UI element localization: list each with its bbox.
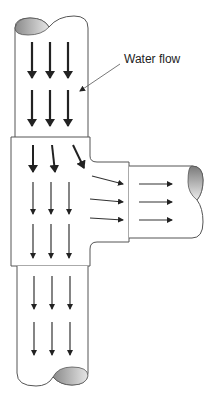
water-flow-label: Water flow: [124, 52, 180, 66]
tee-flow-diagram: [0, 0, 213, 399]
top-pipe: [15, 16, 88, 137]
